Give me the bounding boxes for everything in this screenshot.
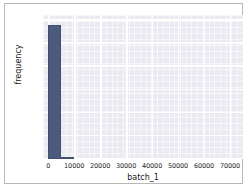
histogram-bar: [48, 25, 61, 159]
x-tick-label: 10000: [64, 162, 84, 170]
x-tick-label: 60000: [194, 162, 214, 170]
x-axis-label: batch_1: [43, 173, 243, 182]
x-tick-label: 70000: [220, 162, 240, 170]
figure-frame: 0100020003000400050006000 01000020000300…: [4, 3, 243, 184]
x-tick-label: 50000: [168, 162, 188, 170]
histogram-bar: [61, 157, 74, 159]
x-tick-label: 40000: [142, 162, 162, 170]
histogram-bars: [43, 15, 243, 159]
y-axis-label: frequency: [14, 30, 23, 100]
x-tick-label: 20000: [90, 162, 110, 170]
plot-area: [43, 15, 243, 159]
x-tick-label: 0: [46, 162, 50, 170]
x-tick-label: 30000: [116, 162, 136, 170]
